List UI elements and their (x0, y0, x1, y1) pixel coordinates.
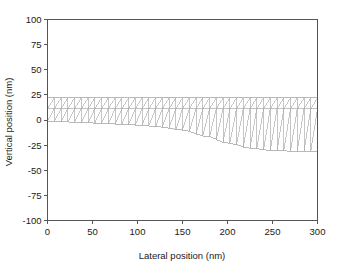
x-axis-title: Lateral position (nm) (139, 250, 226, 261)
x-tick-label: 150 (175, 226, 191, 237)
chart-figure: 050100150200250300-100-75-50-25025507510… (0, 0, 340, 264)
x-tick-label: 300 (310, 226, 326, 237)
x-tick-label: 50 (87, 226, 98, 237)
y-axis-title: Vertical position (nm) (3, 78, 14, 167)
y-tick-label: -75 (28, 190, 42, 201)
plot-background (0, 0, 340, 264)
x-tick-label: 100 (130, 226, 146, 237)
y-tick-label: 25 (31, 89, 42, 100)
y-tick-label: 75 (31, 39, 42, 50)
x-tick-label: 250 (265, 226, 281, 237)
x-tick-label: 0 (45, 226, 50, 237)
y-tick-label: -25 (28, 140, 42, 151)
x-tick-label: 200 (220, 226, 236, 237)
y-tick-label: -50 (28, 165, 42, 176)
y-tick-label: 50 (31, 64, 42, 75)
y-tick-label: 0 (36, 114, 41, 125)
y-tick-label: 100 (26, 14, 42, 25)
y-tick-label: -100 (22, 215, 41, 226)
plot-canvas: 050100150200250300-100-75-50-25025507510… (0, 0, 340, 264)
